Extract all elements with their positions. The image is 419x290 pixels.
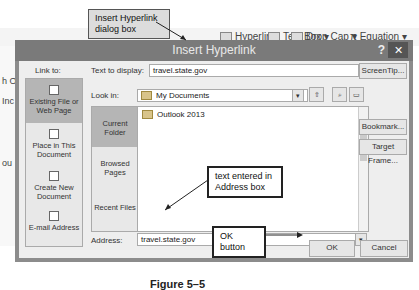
figure-caption: Figure 5–5 [150, 278, 205, 290]
callout-address: text entered in Address box [207, 166, 283, 198]
callout-ok-button: OK button [212, 226, 266, 258]
